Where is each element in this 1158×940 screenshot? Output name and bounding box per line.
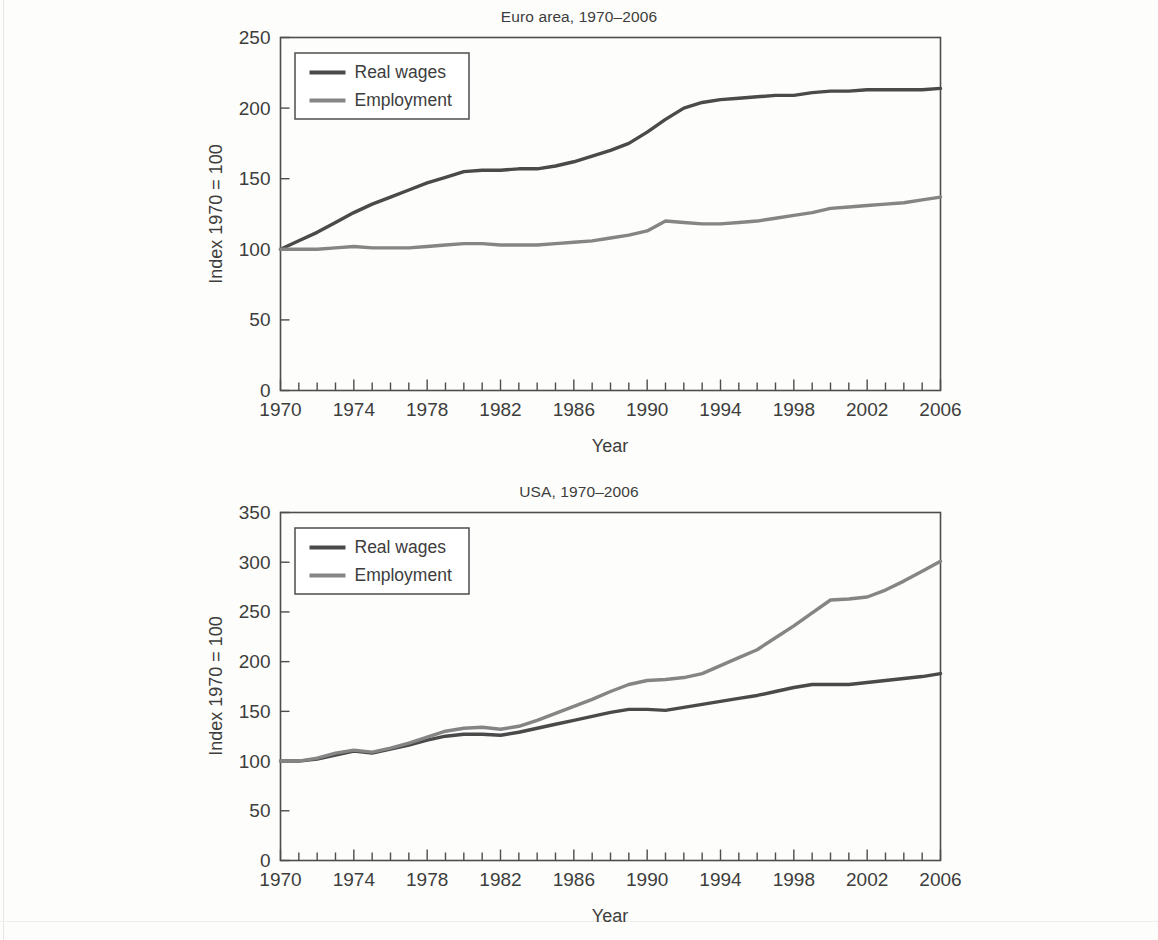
usa-ylabel: Index 1970 = 100 bbox=[206, 616, 226, 756]
panel-euro-area: Euro area, 1970–2006 050100150200250 197… bbox=[0, 0, 1158, 470]
euro-xtick-label: 1978 bbox=[406, 399, 448, 420]
panel-title-usa: USA, 1970–2006 bbox=[0, 483, 1158, 501]
euro-ytick-label: 100 bbox=[239, 239, 271, 260]
euro-legend-label-real-wages: Real wages bbox=[355, 62, 447, 82]
euro-ytick-label: 150 bbox=[239, 168, 271, 189]
euro-legend-label-employment: Employment bbox=[355, 90, 452, 110]
chart-usa: 050100150200250300350 197019741978198219… bbox=[0, 470, 1158, 940]
euro-xtick-label: 1974 bbox=[333, 399, 376, 420]
usa-ytick-label: 350 bbox=[239, 502, 271, 523]
euro-xtick-label: 1970 bbox=[259, 399, 301, 420]
usa-ytick-label: 200 bbox=[239, 651, 271, 672]
usa-xtick-label: 1982 bbox=[479, 869, 521, 890]
usa-ytick-label: 300 bbox=[239, 552, 271, 573]
usa-ytick-label: 250 bbox=[239, 601, 271, 622]
euro-legend: Real wagesEmployment bbox=[295, 53, 469, 119]
euro-ylabel: Index 1970 = 100 bbox=[206, 144, 226, 284]
euro-ytick-label: 50 bbox=[249, 309, 270, 330]
euro-ytick-label: 250 bbox=[239, 27, 271, 48]
chart-euro-area: 050100150200250 197019741978198219861990… bbox=[0, 0, 1158, 470]
euro-xtick-label: 1982 bbox=[479, 399, 521, 420]
usa-xtick-label: 1974 bbox=[333, 869, 376, 890]
euro-xlabel: Year bbox=[592, 436, 628, 456]
usa-legend: Real wagesEmployment bbox=[295, 528, 469, 594]
usa-series-real-wages bbox=[281, 674, 941, 762]
figure-two-panel-line-charts: Euro area, 1970–2006 050100150200250 197… bbox=[0, 0, 1158, 940]
usa-legend-label-real-wages: Real wages bbox=[355, 537, 447, 557]
usa-ytick-label: 150 bbox=[239, 701, 271, 722]
usa-ytick-label: 50 bbox=[249, 800, 270, 821]
euro-series-employment bbox=[281, 197, 941, 249]
euro-xtick-label: 2002 bbox=[846, 399, 888, 420]
usa-xlabel: Year bbox=[592, 906, 628, 926]
usa-xtick-label: 2006 bbox=[919, 869, 961, 890]
usa-xtick-label: 2002 bbox=[846, 869, 888, 890]
euro-xtick-label: 1994 bbox=[699, 399, 742, 420]
euro-ytick-label: 200 bbox=[239, 98, 271, 119]
euro-xtick-label: 1998 bbox=[773, 399, 815, 420]
usa-ytick-label: 100 bbox=[239, 751, 271, 772]
panel-title-euro-area: Euro area, 1970–2006 bbox=[0, 8, 1158, 26]
usa-xtick-label: 1986 bbox=[553, 869, 595, 890]
usa-legend-label-employment: Employment bbox=[355, 565, 452, 585]
panel-usa: USA, 1970–2006 050100150200250300350 197… bbox=[0, 470, 1158, 940]
euro-xtick-label: 1986 bbox=[553, 399, 595, 420]
euro-xtick-label: 1990 bbox=[626, 399, 668, 420]
euro-xtick-label: 2006 bbox=[919, 399, 961, 420]
euro-y-axis: 050100150200250 bbox=[239, 27, 290, 401]
usa-y-axis: 050100150200250300350 bbox=[239, 502, 290, 871]
euro-x-axis: 1970197419781982198619901994199820022006 bbox=[259, 380, 961, 420]
usa-xtick-label: 1998 bbox=[773, 869, 815, 890]
usa-x-axis: 1970197419781982198619901994199820022006 bbox=[259, 850, 961, 890]
usa-xtick-label: 1994 bbox=[699, 869, 742, 890]
usa-xtick-label: 1978 bbox=[406, 869, 448, 890]
usa-xtick-label: 1970 bbox=[259, 869, 301, 890]
usa-xtick-label: 1990 bbox=[626, 869, 668, 890]
